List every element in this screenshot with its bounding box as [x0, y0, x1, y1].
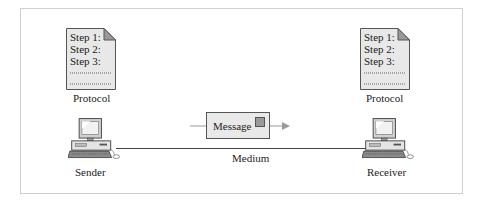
receiver-protocol-document: Step 1: Step 2: Step 3:	[360, 28, 410, 90]
receiver-label: Receiver	[367, 166, 406, 178]
sender-label: Sender	[75, 166, 106, 178]
protocol-step: Step 1:	[364, 31, 395, 43]
protocol-step: Step 1:	[70, 31, 101, 43]
message-label: Message	[213, 120, 252, 132]
protocol-step: Step 3:	[364, 55, 395, 67]
sender-protocol-document: Step 1: Step 2: Step 3:	[66, 28, 116, 90]
protocol-step: Step 2:	[364, 43, 395, 55]
message-envelope: Message	[206, 112, 270, 139]
protocol-step: Step 2:	[70, 43, 101, 55]
receiver-computer-icon	[362, 116, 414, 162]
protocol-step: Step 3:	[70, 55, 101, 67]
stamp-icon	[255, 117, 265, 127]
medium-label: Medium	[232, 152, 269, 164]
medium-line	[116, 148, 374, 149]
receiver-protocol-label: Protocol	[366, 92, 403, 104]
sender-computer-icon	[68, 116, 120, 162]
sender-protocol-label: Protocol	[73, 92, 110, 104]
